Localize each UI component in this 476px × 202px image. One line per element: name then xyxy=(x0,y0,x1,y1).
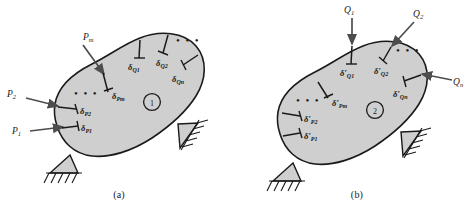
load-label-P1: P1 xyxy=(11,126,21,137)
panel-a: P1 P2 Pm δP1 xyxy=(0,0,238,202)
pin-support-right xyxy=(178,120,208,150)
caption-panel-a: (a) xyxy=(0,189,238,200)
panel-b-drawing: Q1 Q2 Qn δ′Q1 xyxy=(238,0,476,202)
figure-two-panel-elastic-body: P1 P2 Pm δP1 xyxy=(0,0,476,202)
caption-panel-b: (b) xyxy=(238,189,476,200)
pin-support-left xyxy=(267,163,305,191)
svg-text:2: 2 xyxy=(373,107,377,116)
ellipsis-Q-loads: • • • xyxy=(176,34,200,46)
load-label-Q2: Q2 xyxy=(413,9,424,20)
load-label-P2: P2 xyxy=(6,89,17,100)
ellipsis-P-loads: • • • xyxy=(74,87,98,99)
ellipsis-Q-loads: • • • xyxy=(396,44,420,56)
load-label-Q1: Q1 xyxy=(344,5,354,16)
panel-a-drawing: P1 P2 Pm δP1 xyxy=(0,0,238,202)
load-arrow-Q2 xyxy=(392,22,414,46)
load-label-Qn: Qn xyxy=(453,77,464,88)
load-label-Pm: Pm xyxy=(82,32,94,43)
svg-text:1: 1 xyxy=(150,99,154,108)
panel-b: Q1 Q2 Qn δ′Q1 xyxy=(238,0,476,202)
pin-support-left xyxy=(44,155,82,183)
ellipsis-P-loads: • • • xyxy=(296,94,320,106)
load-arrow-P2 xyxy=(26,98,58,106)
pin-support-right xyxy=(401,128,431,158)
